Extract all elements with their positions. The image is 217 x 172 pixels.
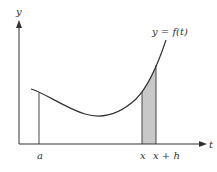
y-axis-label: y: [15, 6, 22, 17]
y-axis-arrow-icon: [16, 20, 22, 28]
shaded-strip: [142, 65, 156, 144]
tick-label-x-plus-h: x + h: [153, 150, 180, 161]
tick-label-x: x: [140, 150, 146, 161]
x-axis-label: t: [209, 139, 214, 150]
x-axis-arrow-icon: [199, 141, 207, 147]
curve-label: y = f(t): [151, 26, 188, 37]
tick-label-a: a: [37, 150, 43, 161]
area-function-diagram: y t y = f(t) a x x + h: [0, 0, 217, 172]
